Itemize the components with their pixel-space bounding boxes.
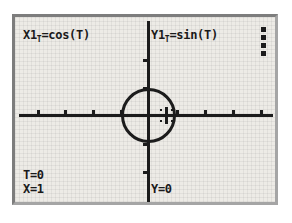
- equation-label-y: Y1T=sin(T): [151, 29, 218, 46]
- y-axis-tick: [143, 59, 148, 62]
- x-axis-tick: [260, 110, 263, 115]
- equation-label-x: X1T=cos(T): [23, 29, 90, 46]
- readout-x-value: X=1: [23, 183, 44, 195]
- x-axis-tick: [232, 110, 235, 115]
- trace-cursor-dot: [160, 120, 162, 122]
- busy-indicator-segment: [261, 43, 266, 48]
- trace-cursor-dot: [171, 109, 173, 111]
- x-axis-tick: [204, 110, 207, 115]
- lcd-bezel: X1T=cos(T) Y1T=sin(T) T=0 X=1 Y=0: [12, 14, 278, 205]
- calculator-screenshot: X1T=cos(T) Y1T=sin(T) T=0 X=1 Y=0: [0, 0, 292, 223]
- busy-indicator-segment: [261, 27, 266, 32]
- equation-x-expression: =cos(T): [41, 28, 89, 42]
- equation-x-var: X1: [23, 28, 37, 42]
- busy-indicator-segment: [261, 51, 266, 56]
- x-axis-tick: [64, 110, 67, 115]
- x-axis-tick: [37, 110, 40, 115]
- trace-cursor[interactable]: [158, 107, 175, 124]
- lcd-screen[interactable]: X1T=cos(T) Y1T=sin(T) T=0 X=1 Y=0: [15, 17, 275, 202]
- trace-cursor-dot: [171, 120, 173, 122]
- readout-y-value: Y=0: [151, 183, 172, 195]
- readout-t-value: T=0: [23, 169, 44, 181]
- trace-cursor-dot: [160, 109, 162, 111]
- x-axis-tick: [176, 110, 179, 115]
- y-axis-tick: [143, 171, 148, 174]
- x-axis-tick: [92, 110, 95, 115]
- trace-cursor-vertical: [165, 107, 168, 124]
- busy-indicator-icon: [261, 27, 266, 56]
- equation-y-expression: =sin(T): [169, 28, 217, 42]
- equation-y-var: Y1: [151, 28, 165, 42]
- y-axis-tick: [143, 143, 148, 146]
- busy-indicator-segment: [261, 35, 266, 40]
